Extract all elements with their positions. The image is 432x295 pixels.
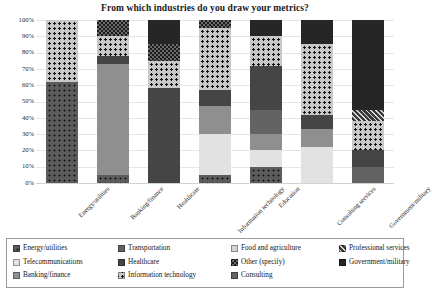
- legend-item[interactable]: Government/military: [339, 259, 405, 267]
- x-axis-tick-label: Banking/finance: [128, 185, 164, 221]
- legend-item[interactable]: Information technology: [118, 272, 231, 280]
- x-axis-tick-label: Government/military: [388, 185, 432, 229]
- stacked-bar[interactable]: [199, 20, 231, 183]
- bar-segment[interactable]: [301, 147, 333, 183]
- bar-segment[interactable]: [250, 36, 282, 65]
- legend-swatch-icon: [231, 259, 238, 266]
- legend-swatch-icon: [231, 245, 238, 252]
- legend-swatch-icon: [13, 272, 20, 279]
- chart-title: From which industries do you draw your m…: [0, 3, 410, 13]
- bar-segment[interactable]: [250, 20, 282, 36]
- bar-segment[interactable]: [199, 20, 231, 28]
- bar-segment[interactable]: [301, 129, 333, 147]
- legend-swatch-icon: [231, 272, 238, 279]
- bar-segment[interactable]: [46, 82, 78, 183]
- legend-item-label: Government/military: [349, 259, 410, 267]
- legend-item-label: Consulting: [241, 272, 273, 280]
- legend-item-label: Other (specify): [241, 259, 285, 267]
- bar-segment[interactable]: [148, 44, 180, 60]
- bar-segment[interactable]: [199, 90, 231, 106]
- legend-item[interactable]: Healthcare: [118, 259, 231, 267]
- y-axis-tick-label: 70%: [0, 66, 34, 73]
- bar-segment[interactable]: [250, 134, 282, 150]
- y-axis-tick-label: 20%: [0, 147, 34, 154]
- legend-item-label: Food and agriculture: [241, 245, 301, 253]
- y-axis-tick-label: 10%: [0, 163, 34, 170]
- bar-segment[interactable]: [199, 175, 231, 183]
- legend-item-label: Information technology: [128, 272, 196, 280]
- legend-item[interactable]: Consulting: [231, 272, 339, 280]
- y-axis-tick-label: 30%: [0, 131, 34, 138]
- bar-segment[interactable]: [97, 175, 129, 183]
- x-axis-tick-label: Information technology: [236, 185, 285, 234]
- legend-item-label: Professional services: [349, 245, 409, 253]
- x-axis-tick-label: Healthcare: [175, 185, 200, 210]
- legend-item-label: Telecommunications: [23, 259, 83, 267]
- x-axis-line: [36, 183, 394, 184]
- legend-swatch-icon: [13, 259, 20, 266]
- legend-item-label: Energy/utilities: [23, 245, 67, 253]
- legend-item-label: Banking/finance: [23, 272, 71, 280]
- legend-swatch-icon: [339, 259, 346, 266]
- stacked-bar[interactable]: [46, 20, 78, 183]
- y-axis-tick-label: 50%: [0, 98, 34, 105]
- stacked-bar[interactable]: [250, 20, 282, 183]
- stacked-bar[interactable]: [352, 20, 384, 183]
- bar-segment[interactable]: [148, 61, 180, 89]
- bar-segment[interactable]: [352, 150, 384, 166]
- bar-segment[interactable]: [250, 110, 282, 134]
- y-axis-tick-label: 80%: [0, 49, 34, 56]
- bar-segment[interactable]: [97, 36, 129, 56]
- legend-swatch-icon: [118, 245, 125, 252]
- stacked-bar[interactable]: [148, 20, 180, 183]
- bar-segment[interactable]: [301, 115, 333, 130]
- bar-segment[interactable]: [352, 20, 384, 110]
- x-axis-tick-label: Energy/utilities: [76, 185, 110, 219]
- stacked-bar[interactable]: [97, 20, 129, 183]
- legend-item[interactable]: Energy/utilities: [13, 245, 118, 253]
- bar-segment[interactable]: [97, 20, 129, 36]
- legend-item-label: Transportation: [128, 245, 170, 253]
- bar-segment[interactable]: [250, 150, 282, 166]
- bar-segment[interactable]: [97, 64, 129, 175]
- y-axis-tick-label: 60%: [0, 82, 34, 89]
- bar-segment[interactable]: [199, 106, 231, 134]
- bar-segment[interactable]: [352, 167, 384, 183]
- legend-swatch-icon: [339, 245, 346, 252]
- legend-item[interactable]: Professional services: [339, 245, 405, 253]
- y-axis-tick-label: 90%: [0, 33, 34, 40]
- bars-group: [36, 20, 394, 183]
- stacked-bar[interactable]: [301, 20, 333, 183]
- bar-segment[interactable]: [46, 20, 78, 82]
- x-axis-tick-label: Consulting services: [335, 185, 377, 227]
- legend-swatch-icon: [13, 245, 20, 252]
- legend-item[interactable]: Transportation: [118, 245, 231, 253]
- legend-grid: Energy/utilitiesTransportationFood and a…: [13, 242, 399, 283]
- bar-segment[interactable]: [199, 28, 231, 90]
- bar-segment[interactable]: [352, 110, 384, 121]
- y-axis-tick-label: 40%: [0, 115, 34, 122]
- legend-swatch-icon: [118, 259, 125, 266]
- bar-segment[interactable]: [148, 20, 180, 44]
- legend-item[interactable]: Other (specify): [231, 259, 339, 267]
- bar-segment[interactable]: [97, 56, 129, 64]
- legend-item-label: Healthcare: [128, 259, 159, 267]
- bar-segment[interactable]: [352, 121, 384, 150]
- y-axis-tick-labels: 100%90%80%70%60%50%40%30%20%10%0%: [0, 20, 34, 183]
- bar-segment[interactable]: [199, 134, 231, 175]
- bar-segment[interactable]: [148, 88, 180, 183]
- x-axis-tick-labels: Energy/utilitiesBanking/financeHealthcar…: [0, 185, 410, 240]
- bar-segment[interactable]: [301, 44, 333, 114]
- bar-segment[interactable]: [301, 20, 333, 44]
- bar-segment[interactable]: [250, 167, 282, 183]
- bar-segment[interactable]: [250, 66, 282, 110]
- legend-swatch-icon: [118, 272, 125, 279]
- legend-item[interactable]: Telecommunications: [13, 259, 118, 267]
- legend-item[interactable]: Banking/finance: [13, 272, 118, 280]
- y-axis-tick-label: 100%: [0, 17, 34, 24]
- chart-legend: Energy/utilitiesTransportationFood and a…: [6, 238, 404, 288]
- legend-item[interactable]: Food and agriculture: [231, 245, 339, 253]
